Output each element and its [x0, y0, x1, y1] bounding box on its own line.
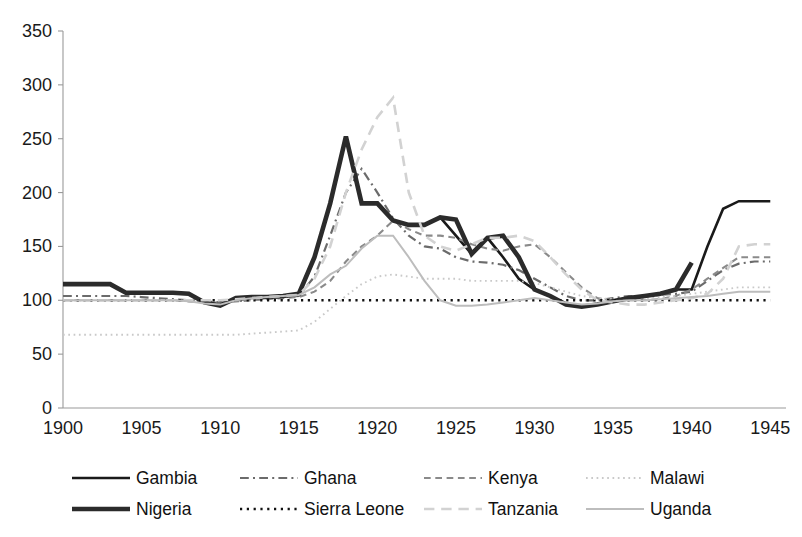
x-tick-label-3: 1915 [279, 418, 319, 438]
legend-item-kenya[interactable]: Kenya [424, 468, 538, 488]
legend-label-nigeria: Nigeria [136, 499, 192, 519]
y-tick-label-0: 0 [42, 398, 52, 418]
legend-item-nigeria[interactable]: Nigeria [72, 499, 192, 519]
x-tick-label-6: 1930 [514, 418, 554, 438]
x-tick-label-7: 1935 [593, 418, 633, 438]
legend-item-sierra-leone[interactable]: Sierra Leone [240, 499, 404, 519]
x-tick-label-0: 1900 [43, 418, 83, 438]
x-tick-label-1: 1905 [122, 418, 162, 438]
y-axis-tick-labels: 050100150200250300350 [22, 21, 52, 418]
x-tick-label-5: 1925 [436, 418, 476, 438]
y-tick-label-7: 350 [22, 21, 52, 41]
chart-legend: GambiaGhanaKenyaMalawiNigeriaSierra Leon… [72, 468, 712, 519]
legend-label-uganda: Uganda [650, 499, 712, 519]
legend-item-ghana[interactable]: Ghana [240, 468, 357, 488]
chart-axes [58, 31, 786, 408]
legend-label-ghana: Ghana [304, 468, 357, 488]
chart-series-group [63, 98, 770, 335]
y-tick-label-2: 100 [22, 290, 52, 310]
series-line-ghana [63, 169, 770, 303]
legend-item-tanzania[interactable]: Tanzania [424, 499, 558, 519]
y-tick-label-4: 200 [22, 183, 52, 203]
legend-label-malawi: Malawi [650, 468, 704, 488]
series-line-tanzania [63, 98, 770, 305]
series-line-nigeria [63, 137, 692, 307]
chart-canvas: 050100150200250300350 190019051910191519… [0, 0, 802, 537]
legend-item-malawi[interactable]: Malawi [586, 468, 704, 488]
legend-label-kenya: Kenya [488, 468, 538, 488]
legend-label-sierra-leone: Sierra Leone [304, 499, 404, 519]
series-line-malawi [63, 274, 770, 334]
legend-item-gambia[interactable]: Gambia [72, 468, 198, 488]
legend-item-uganda[interactable]: Uganda [586, 499, 712, 519]
y-tick-label-6: 300 [22, 75, 52, 95]
x-tick-label-4: 1920 [357, 418, 397, 438]
legend-label-tanzania: Tanzania [488, 499, 558, 519]
x-axis-tick-labels: 1900190519101915192019251930193519401945 [43, 418, 790, 438]
x-tick-label-2: 1910 [200, 418, 240, 438]
x-tick-label-8: 1940 [672, 418, 712, 438]
y-tick-label-5: 250 [22, 129, 52, 149]
y-tick-label-1: 50 [32, 344, 52, 364]
legend-label-gambia: Gambia [136, 468, 198, 488]
series-line-gambia [63, 137, 770, 307]
series-line-kenya [63, 221, 770, 303]
y-tick-label-3: 150 [22, 236, 52, 256]
x-tick-label-9: 1945 [750, 418, 790, 438]
line-chart: 050100150200250300350 190019051910191519… [0, 0, 802, 537]
